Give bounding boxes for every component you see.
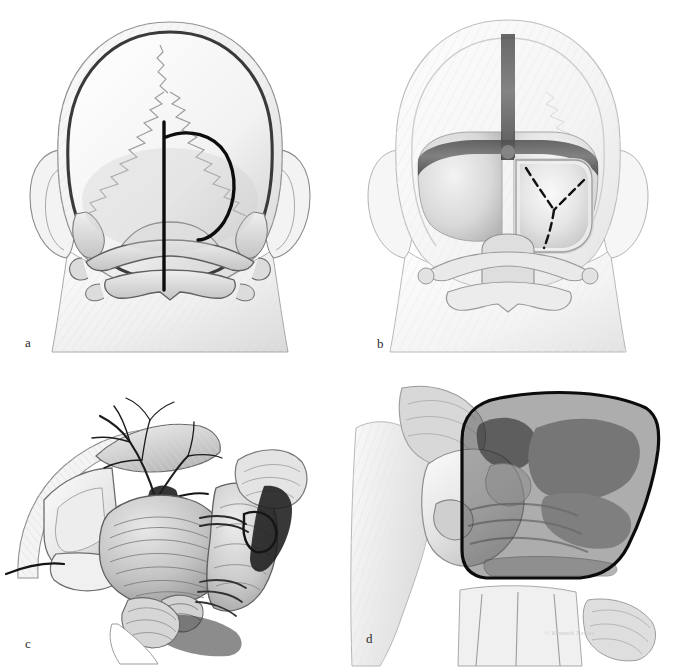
c2-axis-spinous-process — [105, 270, 236, 300]
panel-c-illustration — [0, 368, 340, 667]
panel-c — [0, 368, 340, 667]
panel-b-illustration — [340, 0, 679, 365]
panel-label-a: a — [25, 336, 31, 349]
artist-signature: © Kenneth Xavier — [545, 630, 594, 636]
c2-axis — [446, 282, 571, 312]
torcular-herophili — [501, 145, 515, 159]
panel-a — [0, 0, 340, 365]
paraspinal-muscle-right — [583, 599, 655, 661]
c1-transverse-process-right — [582, 268, 598, 284]
figure-sheet: a b c d © Kenneth Xavier — [0, 0, 679, 667]
panel-label-d: d — [366, 632, 373, 645]
c1-transverse-process-left — [418, 268, 434, 284]
panel-label-c: c — [25, 637, 31, 650]
panel-a-illustration — [0, 0, 340, 365]
exposed-dura-in-window — [520, 164, 588, 248]
panel-label-b: b — [377, 337, 384, 350]
tentorium-hatching — [96, 424, 220, 472]
panel-d-illustration — [340, 368, 679, 667]
panel-d — [340, 368, 679, 667]
panel-b — [340, 0, 679, 365]
